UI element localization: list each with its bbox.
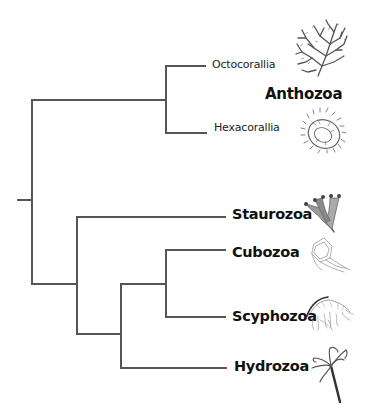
label-hexacorallia: Hexacorallia	[214, 122, 280, 133]
label-scyphozoa: Scyphozoa	[232, 309, 317, 324]
phylogenetic-tree	[0, 0, 371, 420]
label-octocorallia: Octocorallia	[212, 59, 275, 70]
sea-anemone-icon	[301, 108, 346, 153]
label-hydrozoa: Hydrozoa	[234, 359, 309, 374]
label-anthozoa: Anthozoa	[265, 87, 342, 102]
label-cubozoa: Cubozoa	[232, 245, 299, 260]
label-staurozoa: Staurozoa	[232, 207, 312, 222]
sea-fan-coral-icon	[296, 20, 347, 76]
box-jellyfish-icon	[312, 238, 350, 272]
hydra-icon	[312, 347, 347, 402]
